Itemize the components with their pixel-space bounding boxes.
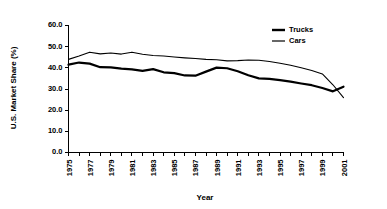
series-line-trucks <box>69 63 344 92</box>
x-axis-tick-label: 1977 <box>86 160 95 177</box>
x-axis-tick-label: 1993 <box>255 160 264 177</box>
market-share-line-chart: 0.010.020.030.040.050.060.0 197519771979… <box>0 0 387 209</box>
y-axis-tick-label: 10.0 <box>48 126 63 135</box>
y-axis-tick-label: 60.0 <box>48 20 63 29</box>
x-axis-tick-label: 2001 <box>340 160 349 177</box>
x-axis-tick-label: 1983 <box>149 160 158 177</box>
x-axis-tick-label: 1985 <box>170 160 179 177</box>
chart-canvas: 0.010.020.030.040.050.060.0 197519771979… <box>0 0 387 209</box>
data-series-group <box>69 52 344 98</box>
series-line-cars <box>69 52 344 98</box>
x-axis-tick-label: 1991 <box>234 160 243 177</box>
y-axis-tick-label: 30.0 <box>48 84 63 93</box>
chart-legend: TrucksCars <box>272 25 313 45</box>
x-axis-tick-label: 1981 <box>128 160 137 177</box>
x-axis: 1975197719791981198319851987198919911993… <box>65 153 349 177</box>
x-axis-tick-label: 1997 <box>297 160 306 177</box>
y-axis-tick-label: 50.0 <box>48 42 63 51</box>
x-axis-tick-label: 1995 <box>276 160 285 177</box>
x-axis-tick-label: 1987 <box>191 160 200 177</box>
legend-label-trucks: Trucks <box>289 25 313 34</box>
x-axis-tick-label: 1979 <box>107 160 116 177</box>
x-axis-tick-label: 1975 <box>65 160 74 177</box>
y-axis-title: U.S. Market Share (%) <box>9 46 18 129</box>
x-axis-tick-label: 1989 <box>213 160 222 177</box>
y-axis-tick-label: 20.0 <box>48 105 63 114</box>
y-axis-tick-label: 40.0 <box>48 63 63 72</box>
legend-label-cars: Cars <box>289 36 306 45</box>
y-axis: 0.010.020.030.040.050.060.0 <box>48 20 69 156</box>
x-axis-tick-label: 1999 <box>318 160 327 177</box>
y-axis-tick-label: 0.0 <box>52 147 62 156</box>
x-axis-title: Year <box>197 193 214 202</box>
